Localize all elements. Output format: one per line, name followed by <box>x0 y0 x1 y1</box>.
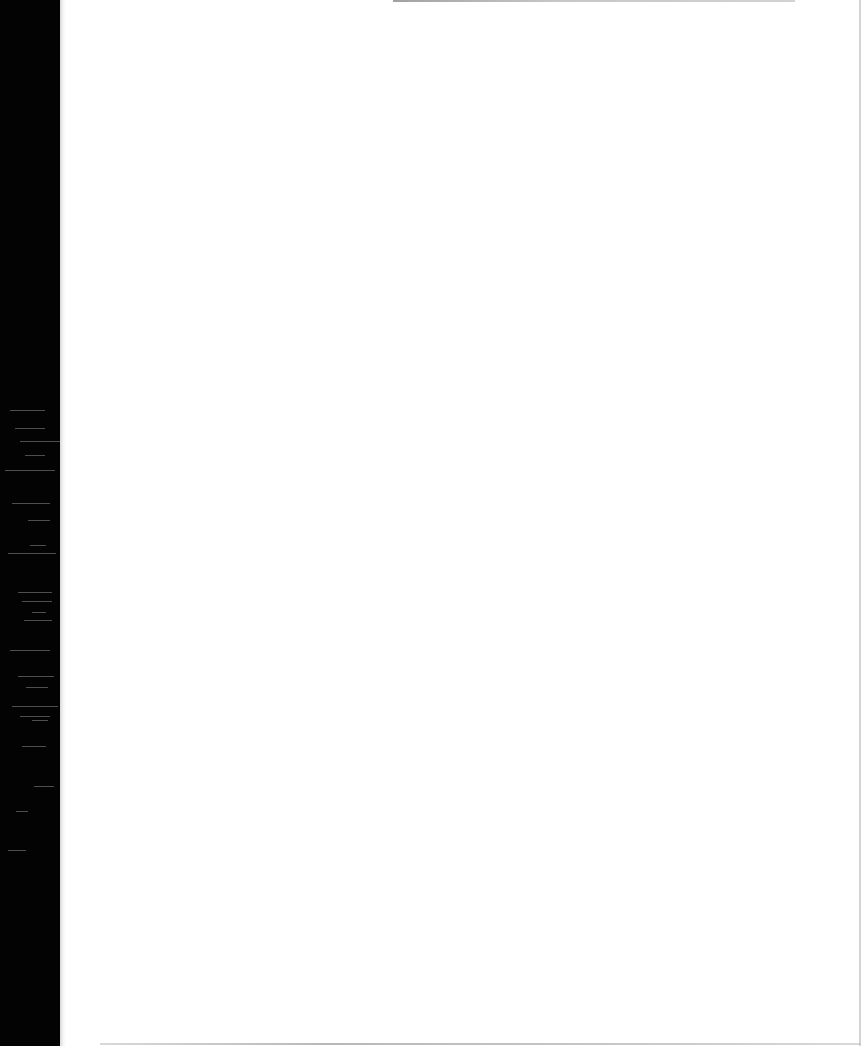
binding-streak <box>16 811 28 812</box>
binding-streak <box>18 592 52 593</box>
binding-streak <box>22 601 52 602</box>
binding-streak <box>8 553 56 554</box>
binding-streak <box>34 786 54 787</box>
scanned-page <box>0 0 861 1046</box>
binding-margin <box>0 0 61 1046</box>
binding-streak <box>25 455 45 456</box>
top-edge-shadow <box>393 0 795 2</box>
blank-page <box>66 0 861 1046</box>
binding-streak <box>12 503 50 504</box>
binding-streak <box>10 650 50 651</box>
binding-streak <box>22 746 46 747</box>
binding-streak <box>32 720 48 721</box>
binding-streak <box>26 687 48 688</box>
bottom-edge-shadow <box>100 1043 861 1045</box>
binding-streak <box>24 620 52 621</box>
binding-streak <box>20 441 60 442</box>
binding-streak <box>8 850 26 851</box>
binding-streak <box>15 428 45 429</box>
binding-streak <box>20 716 50 717</box>
binding-streak <box>10 410 45 411</box>
binding-streak <box>18 676 54 677</box>
page-content <box>146 60 801 986</box>
binding-streak <box>12 706 58 707</box>
binding-streak <box>28 520 50 521</box>
binding-streak <box>30 545 46 546</box>
binding-streak <box>32 612 46 613</box>
binding-streak <box>5 470 55 471</box>
